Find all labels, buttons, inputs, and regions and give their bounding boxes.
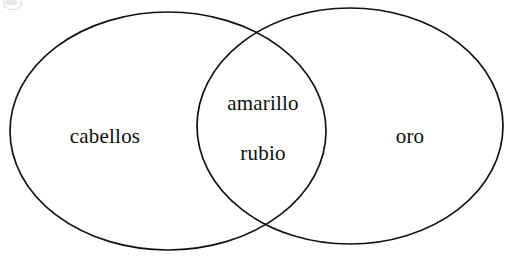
venn-label-right-set: oro <box>350 126 470 147</box>
venn-label-left-set: cabellos <box>30 126 180 147</box>
venn-label-intersection-bottom: rubio <box>203 143 323 164</box>
venn-label-intersection-top: amarillo <box>200 93 326 114</box>
venn-diagram-figure: cabellos amarillo rubio oro <box>0 0 528 259</box>
